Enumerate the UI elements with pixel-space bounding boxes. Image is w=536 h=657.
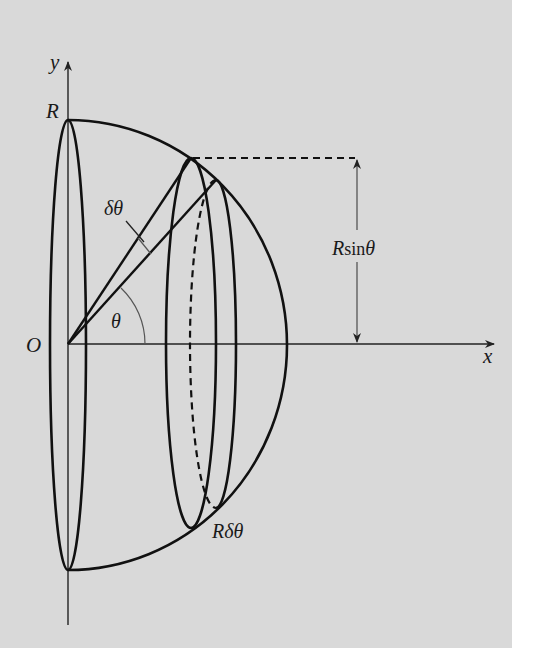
hemisphere-diagram: y x O R θ δθ Rsinθ Rδθ — [0, 0, 536, 657]
delta-theta-label: δθ — [104, 197, 123, 219]
delta-theta-arc — [138, 238, 151, 254]
arc-length-label: Rδθ — [211, 520, 244, 542]
radius-label: R — [45, 99, 59, 123]
x-axis-label: x — [482, 344, 493, 368]
theta-label: θ — [111, 310, 121, 332]
origin-label: O — [26, 333, 41, 357]
ring-height-label: Rsinθ — [331, 237, 375, 259]
y-axis-label: y — [48, 50, 60, 74]
radius-line-1 — [68, 158, 191, 344]
theta-arc — [121, 288, 145, 344]
